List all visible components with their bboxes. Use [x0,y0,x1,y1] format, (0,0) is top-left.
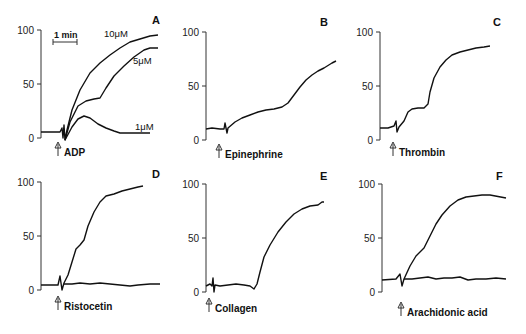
y-tick-0: 0 [193,287,199,298]
y-tick-0: 0 [193,135,199,146]
arrow-up-icon [55,142,61,156]
y-tick-50: 50 [364,233,376,244]
arrow-up-icon [55,296,61,310]
y-tick-50: 50 [23,79,35,90]
y-tick-100: 100 [356,27,373,38]
panel-f: 100 50 0 F Arachidonic acid [358,170,506,318]
y-tick-100: 100 [182,179,199,190]
trace-arachidonic-baseline [404,277,506,280]
trace-ristocetin-aggregation [41,186,143,290]
agonist-label: Collagen [215,303,257,314]
y-tick-100: 100 [182,27,199,38]
panel-letter: B [320,16,328,28]
y-tick-0: 0 [28,285,34,296]
trace-thrombin [380,46,490,132]
panel-c: 100 50 0 C Thrombin [356,16,501,158]
panel-e: 100 50 0 E Collagen [182,170,327,314]
agonist-label: Arachidonic acid [407,307,488,318]
panel-d: 100 50 0 D Ristocetin [17,168,160,312]
y-axis [37,182,41,290]
y-tick-50: 50 [188,81,200,92]
y-axis [376,32,380,140]
trace-ristocetin-baseline [64,283,160,286]
y-tick-50: 50 [188,233,200,244]
y-tick-100: 100 [17,25,34,36]
arrow-up-icon [216,144,222,158]
y-tick-50: 50 [23,231,35,242]
y-tick-100: 100 [358,179,375,190]
agonist-label: Ristocetin [64,301,112,312]
concentration-label-10um: 10μM [104,28,128,39]
agonist-label: Epinephrine [225,149,283,160]
panel-letter: D [152,168,160,180]
y-tick-0: 0 [28,133,34,144]
y-tick-0: 0 [369,287,375,298]
concentration-label-1um: 1μM [135,121,154,132]
concentration-label-5um: 5μM [133,55,152,66]
y-tick-50: 50 [362,81,374,92]
agonist-label: Thrombin [399,147,445,158]
scale-bar-label: 1 min [54,30,78,40]
y-tick-0: 0 [367,135,373,146]
figure-canvas: 100 50 0 A 1 min 10μM 5μM 1μM ADP 100 50… [0,0,526,334]
panel-letter: F [496,170,503,182]
trace-collagen [206,202,324,292]
y-axis [37,30,41,138]
trace-epinephrine [206,61,336,133]
panel-b: 100 50 0 B Epinephrine [182,16,336,160]
arrow-up-icon [390,142,396,156]
y-axis [202,184,206,292]
panel-letter: E [320,170,327,182]
trace-arachidonic-aggregation [382,195,506,286]
panel-a: 100 50 0 A 1 min 10μM 5μM 1μM ADP [17,14,160,158]
agonist-label: ADP [64,147,85,158]
panel-letter: C [493,16,501,28]
arrow-up-icon [206,298,212,312]
y-axis [202,32,206,140]
y-tick-100: 100 [17,177,34,188]
y-axis [378,184,382,292]
panel-letter: A [152,14,160,26]
arrow-up-icon [398,302,404,316]
